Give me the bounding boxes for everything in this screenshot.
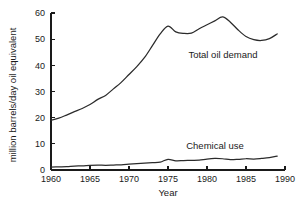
x-tick-label-group: 1960196519701975198019851990: [41, 174, 295, 184]
line-chart: 0102030405060 19601965197019751980198519…: [0, 0, 304, 212]
chart-container: 0102030405060 19601965197019751980198519…: [0, 0, 304, 212]
y-tick-label-50: 50: [35, 34, 45, 44]
x-tick-label-1965: 1965: [80, 174, 100, 184]
annotation-chemical-use: Chemical use: [186, 140, 244, 151]
x-tick-label-1970: 1970: [119, 174, 139, 184]
y-tick-label-group: 0102030405060: [35, 8, 45, 175]
x-tick-label-1990: 1990: [275, 174, 295, 184]
y-tick-group: [51, 13, 55, 170]
annotation-total-oil-demand: Total oil demand: [188, 49, 257, 60]
y-tick-label-30: 30: [35, 87, 45, 97]
x-axis-title: Year: [158, 187, 177, 198]
y-tick-label-10: 10: [35, 139, 45, 149]
y-tick-label-20: 20: [35, 113, 45, 123]
x-tick-group: [51, 166, 285, 170]
x-tick-label-1975: 1975: [158, 174, 178, 184]
y-axis-title: million barrels/day oil equivalent: [7, 27, 18, 162]
series-line-chemical-use: [51, 156, 277, 167]
x-tick-label-1985: 1985: [236, 174, 256, 184]
y-tick-label-40: 40: [35, 61, 45, 71]
x-tick-label-1960: 1960: [41, 174, 61, 184]
y-tick-label-60: 60: [35, 8, 45, 18]
series-line-total-oil-demand: [51, 17, 277, 120]
x-tick-label-1980: 1980: [197, 174, 217, 184]
